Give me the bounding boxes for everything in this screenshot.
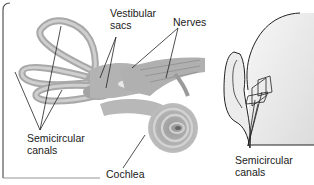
label-nerves: Nerves [173, 16, 206, 28]
nerves-illustration [120, 58, 205, 97]
cochlea-illustration [100, 99, 198, 153]
head-profile-illustration [224, 13, 314, 148]
label-semicircular-canals-left: Semicircular canals [27, 132, 85, 156]
inner-ear-diagram: Vestibular sacs Nerves Semicircular cana… [0, 0, 314, 185]
label-semicircular-canals-right: Semicircular canals [235, 154, 293, 178]
label-cochlea: Cochlea [106, 168, 145, 180]
label-vestibular-sacs: Vestibular sacs [110, 7, 156, 31]
